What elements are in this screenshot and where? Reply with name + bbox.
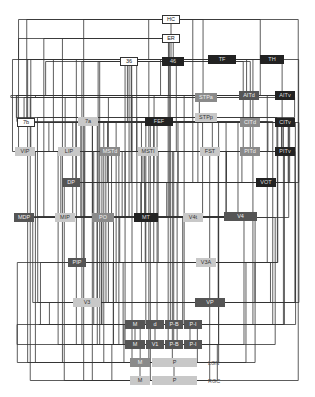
area-node-v4t: V4t: [183, 213, 203, 222]
area-node-pitd: PITd: [240, 147, 260, 156]
visual-hierarchy-diagram: HCER3646TFTHSTPaAITdAITvSTPpCITdCITv7b7a…: [0, 0, 315, 397]
area-node-fst: FST: [200, 147, 220, 156]
area-node-pitv: PITv: [275, 147, 295, 156]
area-node-citd: CITd: [240, 118, 260, 127]
area-node-po: PO: [92, 213, 114, 222]
area-node-v4: V4: [224, 212, 257, 221]
area-node-stpa: STPa: [195, 93, 217, 102]
area-node-citv: CITv: [275, 118, 295, 127]
layer-label-lgn: LGN: [208, 360, 219, 366]
area-node-rgc-m: M: [130, 376, 150, 385]
area-node-v2-pi: P-I: [184, 320, 202, 329]
area-node-mdp: MDP: [14, 213, 34, 222]
area-node-v2-d: d: [146, 320, 164, 329]
area-node-fef: FEF: [145, 117, 173, 126]
area-node-tf: TF: [208, 55, 236, 64]
area-node-hc: HC: [162, 15, 180, 24]
area-node-36: 36: [120, 57, 138, 66]
area-node-v2-m: M: [125, 320, 145, 329]
area-node-v2-pb: P-B: [165, 320, 183, 329]
area-node-v3a: V3A: [196, 258, 216, 267]
area-node-er: ER: [162, 34, 180, 43]
area-node-lgn-m: M: [130, 358, 150, 367]
area-node-lgn-p: P: [152, 358, 197, 367]
area-node-rgc-p: P: [152, 376, 197, 385]
area-node-v1-pb: P-B: [165, 340, 183, 349]
area-node-mip: MIP: [55, 213, 75, 222]
area-node-lip: LIP: [58, 147, 80, 156]
area-node-mt: MT: [134, 213, 158, 222]
area-node-vp: VP: [195, 298, 225, 307]
area-node-mstl: MSTl: [138, 147, 158, 156]
area-node-vip: VIP: [15, 147, 35, 156]
area-node-stpp: STPp: [195, 113, 217, 122]
area-node-aitd: AITd: [239, 91, 259, 100]
area-node-7b: 7b: [17, 118, 35, 127]
area-node-v1-pi: P-I: [184, 340, 202, 349]
area-node-dp: DP: [62, 178, 80, 187]
area-node-v1-v1: V1: [146, 340, 164, 349]
layer-label-rgc: RGC: [208, 378, 220, 384]
area-node-mstd: MSTd: [100, 147, 120, 156]
area-node-pip: PIP: [68, 258, 86, 267]
area-node-v3: V3: [73, 298, 101, 307]
area-node-aitv: AITv: [275, 91, 295, 100]
area-node-th: TH: [260, 55, 284, 64]
area-node-46: 46: [162, 57, 184, 66]
area-node-vot: VOT: [256, 178, 276, 187]
area-node-7a: 7a: [78, 117, 98, 126]
area-node-v1-m: M: [125, 340, 145, 349]
